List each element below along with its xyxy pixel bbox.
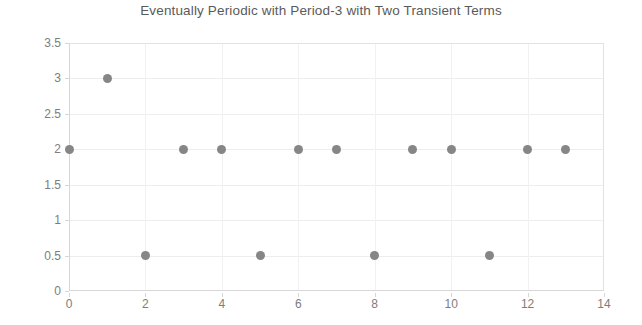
y-tick-label: 0 <box>5 284 61 298</box>
y-tick-label: 1 <box>5 213 61 227</box>
y-tick-label: 3.5 <box>5 36 61 50</box>
x-tick-label: 2 <box>125 297 165 311</box>
x-tick-label: 0 <box>49 297 89 311</box>
x-tick-mark <box>451 293 452 297</box>
x-tick-label: 10 <box>431 297 471 311</box>
x-tick-mark <box>375 293 376 297</box>
x-tick-mark <box>145 293 146 297</box>
data-point <box>523 145 532 154</box>
data-point <box>256 251 265 260</box>
x-tick-mark <box>69 293 70 297</box>
y-tick-label: 1.5 <box>5 178 61 192</box>
x-tick-label: 6 <box>278 297 318 311</box>
data-point <box>65 145 74 154</box>
x-axis: 02468101214 <box>69 297 604 315</box>
data-point <box>141 251 150 260</box>
x-tick-mark <box>528 293 529 297</box>
data-point <box>332 145 341 154</box>
x-tick-mark <box>222 293 223 297</box>
chart-container: Eventually Periodic with Period-3 with T… <box>0 0 642 325</box>
x-tick-label: 14 <box>584 297 624 311</box>
chart-title: Eventually Periodic with Period-3 with T… <box>0 3 642 18</box>
y-tick-mark <box>65 291 69 292</box>
y-axis: 00.511.522.533.5 <box>0 43 61 291</box>
x-tick-mark <box>604 293 605 297</box>
x-tick-label: 12 <box>508 297 548 311</box>
data-point <box>447 145 456 154</box>
data-point <box>103 74 112 83</box>
data-point <box>485 251 494 260</box>
y-tick-label: 3 <box>5 71 61 85</box>
y-tick-label: 0.5 <box>5 249 61 263</box>
x-tick-mark <box>298 293 299 297</box>
data-point <box>561 145 570 154</box>
x-tick-label: 4 <box>202 297 242 311</box>
y-tick-label: 2.5 <box>5 107 61 121</box>
plot-area <box>69 43 604 291</box>
x-tick-label: 8 <box>355 297 395 311</box>
data-point <box>294 145 303 154</box>
data-point <box>179 145 188 154</box>
y-tick-label: 2 <box>5 142 61 156</box>
